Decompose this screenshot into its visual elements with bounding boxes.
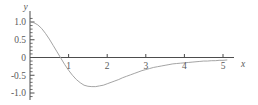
chart-svg: 12345 1.00.50-0.5-1.0 y x <box>0 0 258 105</box>
y-tick-label: 0.5 <box>14 35 26 45</box>
x-tick-label: 4 <box>182 61 187 71</box>
x-tick-label: 1 <box>66 61 71 71</box>
chart-plot-area: 12345 1.00.50-0.5-1.0 y x <box>0 0 258 105</box>
x-tick-label: 5 <box>221 61 226 71</box>
x-axis-title: x <box>240 59 246 69</box>
x-tick-label: 3 <box>143 61 148 71</box>
y-axis-title: y <box>22 2 28 12</box>
y-tick-label: -1.0 <box>11 88 26 98</box>
y-tick-label: 1.0 <box>14 17 26 27</box>
y-tick-label: 0 <box>21 53 26 63</box>
chart-background <box>0 0 258 105</box>
x-tick-label: 2 <box>105 61 110 71</box>
y-tick-label: -0.5 <box>11 71 26 81</box>
